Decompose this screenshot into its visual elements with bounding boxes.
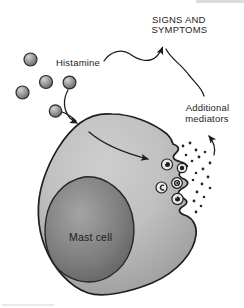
signs-symptoms-label-line2: SYMPTOMS xyxy=(152,24,208,35)
mediator-dot xyxy=(185,154,188,157)
mast-cell-diagram: SIGNS AND SYMPTOMS Histamine Additional … xyxy=(0,0,244,308)
curve-mediators-to-signs xyxy=(166,49,204,96)
diagram-canvas: SIGNS AND SYMPTOMS Histamine Additional … xyxy=(0,0,244,308)
mediator-dot xyxy=(182,145,185,148)
arrow-histamine-to-signs xyxy=(104,48,163,62)
scan-artifact-top xyxy=(196,0,244,3)
arrow-to-additional-mediators xyxy=(209,136,215,155)
signs-symptoms-label-line1: SIGNS AND xyxy=(152,14,206,25)
mediator-dot xyxy=(191,160,194,163)
mediator-dot xyxy=(196,191,199,194)
mediator-dot xyxy=(209,162,212,165)
mediator-dot xyxy=(193,200,196,203)
additional-mediators-label-line1: Additional xyxy=(186,102,230,113)
histamine-molecule xyxy=(63,76,76,89)
granule xyxy=(172,193,183,204)
mediator-dot xyxy=(198,156,201,159)
mediator-dot xyxy=(203,196,206,199)
mediator-dot xyxy=(200,205,203,208)
granule xyxy=(172,178,183,189)
mediator-dot xyxy=(192,179,195,182)
mast-cell-label: Mast cell xyxy=(69,231,112,243)
mediator-dot xyxy=(202,168,205,171)
mediator-dot xyxy=(207,176,210,179)
scan-artifact-bottom xyxy=(2,304,54,306)
mediator-dot xyxy=(204,151,207,154)
histamine-molecule xyxy=(49,105,61,117)
mediator-dot xyxy=(189,142,192,145)
mast-cell-nucleus xyxy=(45,177,134,282)
histamine-molecule xyxy=(16,86,29,99)
granule xyxy=(177,163,186,172)
histamine-molecule xyxy=(40,76,53,89)
mediator-dot xyxy=(201,183,204,186)
arrow-histamine-to-cell xyxy=(64,90,77,123)
histamine-label: Histamine xyxy=(56,57,100,68)
histamine-molecule xyxy=(24,53,37,66)
additional-mediators-label-line2: mediators xyxy=(185,113,229,124)
mediator-dot xyxy=(209,187,212,190)
mediator-dot xyxy=(195,172,198,175)
mediator-dot xyxy=(195,211,198,214)
mediator-dot xyxy=(195,149,198,152)
granule xyxy=(162,159,173,170)
granule xyxy=(156,182,167,193)
mediator-dot xyxy=(186,165,188,167)
